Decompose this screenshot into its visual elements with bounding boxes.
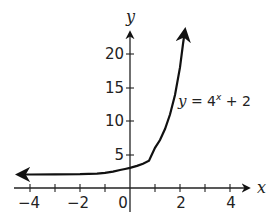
x-tick-label: 2 [176, 194, 186, 212]
exponential-graph: −4 −2 0 2 4 5 10 15 20 x y y = 4x + 2 [0, 0, 271, 217]
x-tick-label: 4 [226, 194, 236, 212]
y-tick-label: 20 [105, 45, 124, 63]
exponential-curve [18, 30, 185, 175]
y-tick-label: 10 [105, 112, 124, 130]
y-axis-label: y [125, 7, 136, 26]
y-tick-label: 15 [105, 79, 124, 97]
x-tick-label: −4 [18, 194, 40, 212]
y-tick-label: 5 [114, 146, 124, 164]
x-tick-label: 0 [118, 194, 128, 212]
x-tick-label: −2 [67, 194, 89, 212]
x-axis-label: x [257, 178, 266, 197]
equation-label: y = 4x + 2 [177, 92, 251, 110]
